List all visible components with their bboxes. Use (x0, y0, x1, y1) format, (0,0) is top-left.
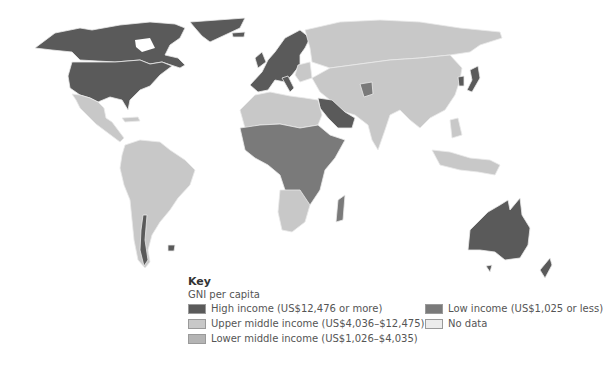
region-south-america (120, 140, 195, 268)
low-income-swatch (425, 304, 443, 314)
map-legend: Key GNI per capita High income (US$12,47… (188, 275, 613, 352)
region-north-america-canada (35, 22, 185, 68)
no-data-swatch (425, 319, 443, 329)
region-italy (282, 76, 294, 92)
region-australia (468, 198, 530, 260)
region-korea (458, 76, 464, 86)
region-iceland (232, 32, 245, 37)
region-greenland (190, 18, 245, 42)
region-uk (255, 52, 266, 68)
legend-item-low-income: Low income (US$1,025 or less) (425, 302, 603, 316)
upper-middle-income-swatch (188, 319, 206, 329)
high-income-swatch (188, 304, 206, 314)
legend-subtitle: GNI per capita (188, 288, 613, 301)
world-map (0, 0, 613, 290)
lower-middle-income-swatch (188, 334, 206, 344)
region-japan (467, 66, 480, 92)
legend-item-high-income: High income (US$12,476 or more) (188, 302, 382, 316)
legend-item-no-data: No data (425, 317, 487, 331)
legend-title: Key (188, 275, 613, 288)
region-africa-north (240, 92, 322, 128)
legend-item-upper-middle-income: Upper middle income (US$4,036–$12,475) (188, 317, 424, 331)
region-tasmania (486, 265, 492, 272)
region-indonesia (432, 150, 500, 175)
region-caribbean (122, 117, 140, 122)
legend-item-lower-middle-income: Lower middle income (US$1,026–$4,035) (188, 332, 418, 346)
region-uruguay (168, 245, 175, 251)
region-philippines (450, 118, 462, 138)
region-madagascar (336, 195, 345, 222)
